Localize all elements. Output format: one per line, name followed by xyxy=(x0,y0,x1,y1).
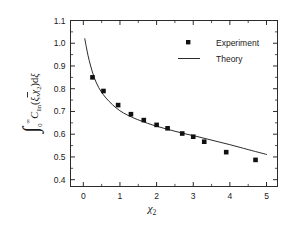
data-point-marker xyxy=(224,150,229,155)
y-tick-label: 0.8 xyxy=(54,84,66,94)
y-tick-label: 0.7 xyxy=(54,106,66,116)
data-point-marker xyxy=(253,158,258,163)
x-tick-label: 1 xyxy=(118,191,123,201)
legend-label-theory: Theory xyxy=(216,54,243,64)
data-point-marker xyxy=(154,123,159,128)
chart-svg: 012345 0.40.50.60.70.80.91.01.1 Experime… xyxy=(0,0,302,225)
data-point-marker xyxy=(90,75,95,80)
data-point-marker xyxy=(180,131,185,136)
data-point-marker xyxy=(165,126,170,131)
legend-label-experiment: Experiment xyxy=(216,38,260,48)
x-tick-label: 3 xyxy=(191,191,196,201)
legend-marker-experiment xyxy=(186,40,190,44)
x-tick-label: 0 xyxy=(81,191,86,201)
x-tick-label: 4 xyxy=(228,191,233,201)
y-tick-label: 1.0 xyxy=(54,38,66,48)
data-point-marker xyxy=(129,112,134,117)
y-tick-label: 0.6 xyxy=(54,129,66,139)
data-point-marker xyxy=(141,118,146,123)
x-tick-label: 2 xyxy=(154,191,159,201)
y-tick-label: 0.4 xyxy=(54,175,66,185)
x-tick-label: 5 xyxy=(264,191,269,201)
y-tick-label: 1.1 xyxy=(54,16,66,26)
data-point-marker xyxy=(191,134,196,139)
data-point-marker xyxy=(116,103,121,108)
chart-figure: 012345 0.40.50.60.70.80.91.01.1 Experime… xyxy=(0,0,302,225)
data-point-marker xyxy=(101,89,106,94)
data-point-marker xyxy=(202,139,207,144)
y-tick-label: 0.9 xyxy=(54,61,66,71)
chart-background xyxy=(0,0,302,225)
y-tick-label: 0.5 xyxy=(54,152,66,162)
